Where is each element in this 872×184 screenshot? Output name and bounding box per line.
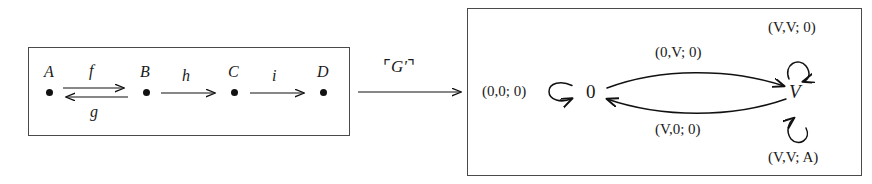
transition-label-text: (0,V; 0) <box>655 44 701 60</box>
functor-arrow-label: ⌜G′⌝ <box>383 58 415 75</box>
object-dot-C <box>231 89 238 96</box>
transition-label-text: (V,V; A) <box>768 149 818 165</box>
transition-label-text: (V,V; 0) <box>768 19 816 35</box>
morphism-label-i: i <box>272 68 276 84</box>
transition-label-text: (V,0; 0) <box>655 121 701 137</box>
transition-label-text: (0,0; 0) <box>482 83 526 99</box>
transition-label-zero-to-V: (0,V; 0) <box>655 45 701 60</box>
morphism-label-f: f <box>89 63 93 79</box>
self-loop-V-bottom <box>788 118 807 142</box>
object-dot-D <box>320 89 327 96</box>
object-label-B: B <box>140 64 150 80</box>
state-label-V: V <box>789 82 801 101</box>
corner-quote-open-icon: ⌜ <box>383 57 391 76</box>
self-loop-zero <box>549 83 572 101</box>
corner-quote-close-icon: ⌝ <box>407 57 415 76</box>
object-dot-B <box>143 89 150 96</box>
transition-label-loop-V-bottom: (V,V; A) <box>768 150 818 165</box>
functor-symbol: G′ <box>391 57 407 76</box>
transition-label-V-to-zero: (V,0; 0) <box>655 122 701 137</box>
state-label-zero: 0 <box>586 82 596 101</box>
self-loop-V-top <box>788 62 809 81</box>
transition-V-to-zero <box>607 99 786 113</box>
object-dot-A <box>46 89 53 96</box>
figure-root: A B C D f g h i ⌜G′⌝ (0,0; 0) 0 V (0,V; … <box>0 0 872 184</box>
object-label-A: A <box>44 64 54 80</box>
morphism-label-g: g <box>90 104 98 120</box>
object-label-C: C <box>228 64 239 80</box>
diagram-lines <box>0 0 872 184</box>
morphism-label-h: h <box>182 68 190 84</box>
transition-label-loop-V-top: (V,V; 0) <box>768 20 816 35</box>
transition-label-loop-zero: (0,0; 0) <box>482 84 526 99</box>
object-label-D: D <box>317 64 329 80</box>
transition-zero-to-V <box>607 73 784 88</box>
